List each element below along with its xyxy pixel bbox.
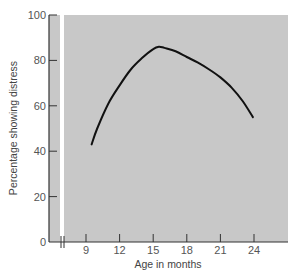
x-tick-label: 9 xyxy=(83,244,89,256)
y-tick-label: 80 xyxy=(34,54,46,66)
y-axis-label: Percentage showing distress xyxy=(7,61,19,195)
x-tick-label: 18 xyxy=(181,244,193,256)
x-tick-label: 15 xyxy=(147,244,159,256)
x-axis-label: Age in months xyxy=(134,258,201,270)
y-tick-label: 100 xyxy=(28,9,46,21)
x-tick-label: 21 xyxy=(214,244,226,256)
x-tick-label: 12 xyxy=(113,244,125,256)
y-axis-strip xyxy=(49,15,60,242)
y-tick-label: 20 xyxy=(34,191,46,203)
x-tick-label: 24 xyxy=(248,244,260,256)
chart: 020406080100 91215182124 Age in months P… xyxy=(0,0,300,275)
y-tick-label: 0 xyxy=(40,236,46,248)
y-tick-label: 40 xyxy=(34,145,46,157)
y-tick-label: 60 xyxy=(34,100,46,112)
